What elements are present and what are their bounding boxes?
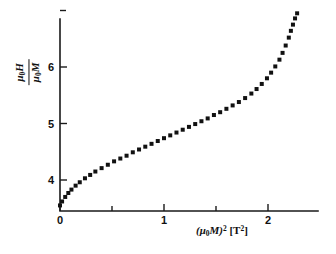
- data-point: [150, 142, 154, 146]
- data-point: [78, 180, 82, 184]
- data-point: [243, 96, 247, 100]
- data-point: [289, 29, 293, 33]
- y-axis-label-numerator: μ0H: [15, 60, 29, 86]
- data-point: [106, 163, 110, 167]
- data-point: [187, 125, 191, 129]
- data-point: [118, 157, 122, 161]
- x-axis-units: [T2]: [227, 224, 248, 236]
- x-axis-label: (μ0M)2 [T2]: [196, 224, 248, 238]
- data-point: [174, 131, 178, 135]
- data-point: [287, 36, 291, 40]
- data-point: [224, 107, 228, 111]
- data-point: [88, 173, 92, 177]
- x-tick-label: 1: [161, 214, 167, 226]
- ticks-group: [60, 11, 268, 212]
- data-point: [273, 64, 277, 68]
- axis-lines: [60, 19, 318, 211]
- y-axis-label-denominator: μ0M: [28, 60, 43, 86]
- data-point: [237, 100, 241, 104]
- tick-labels-group: 012456: [48, 61, 271, 226]
- data-point: [69, 188, 73, 192]
- figure-plot: 012456 μ0H μ0M (μ0M)2 [T2]: [0, 0, 336, 254]
- y-tick-label: 4: [48, 174, 55, 186]
- data-point: [63, 195, 67, 199]
- x-tick-label: 0: [57, 214, 63, 226]
- data-point: [277, 58, 281, 62]
- axes-group: [60, 19, 318, 211]
- data-point: [284, 44, 288, 48]
- data-point: [199, 119, 203, 123]
- y-axis-label: μ0H μ0M: [6, 58, 52, 87]
- data-point: [162, 136, 166, 140]
- data-point: [168, 133, 172, 137]
- chart-canvas: 012456: [0, 0, 336, 254]
- data-point: [93, 170, 97, 174]
- data-point: [249, 92, 253, 96]
- data-point: [74, 184, 78, 188]
- data-series-markers: [58, 11, 299, 207]
- data-point: [255, 87, 259, 91]
- data-point: [218, 110, 222, 114]
- data-point: [193, 122, 197, 126]
- data-point: [269, 71, 273, 75]
- y-tick-label: 5: [48, 118, 54, 130]
- data-point: [58, 203, 62, 207]
- data-point: [231, 103, 235, 107]
- data-point: [156, 139, 160, 143]
- data-point: [260, 82, 264, 86]
- data-point: [206, 116, 210, 120]
- x-axis-label-text: (μ0M)2: [196, 224, 227, 236]
- data-point: [112, 159, 116, 163]
- data-point: [143, 145, 147, 149]
- data-point: [265, 76, 269, 80]
- data-point: [293, 16, 297, 20]
- data-point: [83, 176, 87, 180]
- data-point: [181, 128, 185, 132]
- x-tick-label: 2: [265, 214, 271, 226]
- data-point: [212, 113, 216, 117]
- data-point: [131, 150, 135, 154]
- data-point: [295, 11, 299, 15]
- data-point: [60, 199, 64, 203]
- data-point: [125, 154, 129, 158]
- data-point: [137, 147, 141, 151]
- data-point: [100, 166, 104, 170]
- data-point: [281, 51, 285, 55]
- data-point: [291, 23, 295, 27]
